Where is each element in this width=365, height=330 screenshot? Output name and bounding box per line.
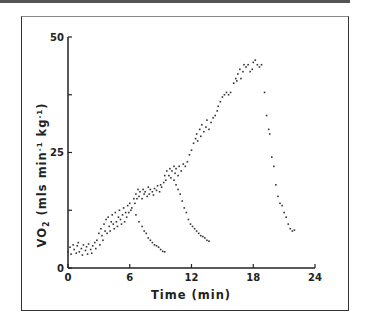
x-tick-label: 0 <box>65 272 72 283</box>
data-point <box>150 239 152 241</box>
data-point <box>194 228 196 230</box>
data-point <box>170 177 172 179</box>
data-point <box>101 235 103 237</box>
data-point <box>181 200 183 202</box>
x-tick-label: 24 <box>308 272 322 283</box>
data-point <box>67 251 69 253</box>
data-point <box>149 193 151 195</box>
y-axis-title: VO2 (mls min-1 kg-1) <box>35 103 51 248</box>
data-point <box>70 253 72 255</box>
data-point <box>216 110 218 112</box>
data-point <box>205 126 207 128</box>
data-point <box>81 248 83 250</box>
data-point <box>82 254 84 256</box>
data-points <box>67 59 295 256</box>
data-point <box>283 212 285 214</box>
data-point <box>137 189 139 191</box>
data-point <box>116 221 118 223</box>
data-point <box>127 205 129 207</box>
data-point <box>138 196 140 198</box>
data-point <box>290 228 292 230</box>
data-point <box>257 64 259 66</box>
data-point <box>269 133 271 135</box>
data-point <box>163 182 165 184</box>
data-point <box>179 193 181 195</box>
data-point <box>156 245 158 247</box>
data-point <box>157 185 159 187</box>
data-point <box>120 219 122 221</box>
data-point <box>191 149 193 151</box>
data-point <box>134 203 136 205</box>
data-point <box>281 205 283 207</box>
data-point <box>99 244 101 246</box>
data-point <box>118 216 120 218</box>
data-point <box>109 230 111 232</box>
data-point <box>198 233 200 235</box>
data-point <box>279 203 281 205</box>
data-point <box>228 94 230 96</box>
data-point <box>94 242 96 244</box>
data-point <box>160 184 162 186</box>
data-point <box>111 214 113 216</box>
data-point <box>79 251 81 253</box>
data-point <box>242 71 244 73</box>
data-point <box>251 69 253 71</box>
data-point <box>115 212 117 214</box>
data-point <box>189 154 191 156</box>
data-point <box>135 214 137 216</box>
data-point <box>243 64 245 66</box>
data-point <box>95 248 97 250</box>
data-point <box>142 189 144 191</box>
data-point <box>76 245 78 247</box>
data-point <box>196 230 198 232</box>
data-point <box>98 233 100 235</box>
data-point <box>141 226 143 228</box>
data-point <box>119 209 121 211</box>
data-point <box>117 226 119 228</box>
data-point <box>235 78 237 80</box>
data-point <box>247 64 249 66</box>
data-point <box>143 193 145 195</box>
data-point <box>175 168 177 170</box>
data-point <box>165 179 167 181</box>
data-point <box>133 198 135 200</box>
data-point <box>190 223 192 225</box>
svg-text:VO2 (mls min-1 kg-1): VO2 (mls min-1 kg-1) <box>35 103 51 248</box>
data-point <box>187 161 189 163</box>
data-point <box>92 245 94 247</box>
data-point <box>177 189 179 191</box>
x-tick-label: 12 <box>185 272 199 283</box>
data-point <box>197 140 199 142</box>
data-point <box>166 170 168 172</box>
data-point <box>153 194 155 196</box>
axes: 0255006121824 <box>50 32 322 284</box>
data-point <box>182 163 184 165</box>
data-point <box>102 239 104 241</box>
data-point <box>108 226 110 228</box>
data-point <box>110 221 112 223</box>
data-point <box>168 175 170 177</box>
data-point <box>164 175 166 177</box>
data-point <box>107 216 109 218</box>
data-point <box>88 243 90 245</box>
data-point <box>252 62 254 64</box>
data-point <box>83 244 85 246</box>
data-point <box>202 236 204 238</box>
data-point <box>147 186 149 188</box>
data-point <box>105 219 107 221</box>
data-point <box>112 223 114 225</box>
data-point <box>196 133 198 135</box>
data-point <box>158 246 160 248</box>
data-point <box>193 142 195 144</box>
data-point <box>152 191 154 193</box>
data-point <box>160 249 162 251</box>
data-point <box>230 92 232 94</box>
data-point <box>100 228 102 230</box>
data-point <box>90 249 92 251</box>
data-point <box>273 166 275 168</box>
data-point <box>104 230 106 232</box>
data-point <box>162 251 164 253</box>
data-point <box>178 166 180 168</box>
data-point <box>173 166 175 168</box>
data-point <box>164 251 166 253</box>
